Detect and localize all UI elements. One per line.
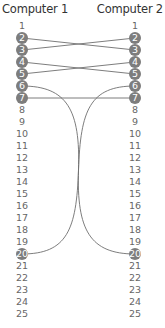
- pin-label: 18: [16, 224, 28, 235]
- pin-label: 19: [16, 236, 28, 247]
- computer-1-pin-10: 10: [10, 128, 34, 140]
- pin-label: 15: [129, 188, 141, 199]
- pin-label: 4: [19, 56, 25, 67]
- computer-1-pin-6: 6: [10, 80, 34, 92]
- computer-1-pin-17: 17: [10, 212, 34, 224]
- pin-label: 12: [16, 152, 28, 163]
- computer-1-pin-9: 9: [10, 116, 34, 128]
- computer-1-pin-16: 16: [10, 200, 34, 212]
- pin-label: 24: [129, 296, 141, 307]
- computer-1-pin-12: 12: [10, 152, 34, 164]
- computer-2-pin-9: 9: [123, 116, 147, 128]
- pin-label: 5: [19, 68, 25, 79]
- computer-2-pin-17: 17: [123, 212, 147, 224]
- computer-2-pin-13: 13: [123, 164, 147, 176]
- computer-2-pin-6: 6: [123, 80, 147, 92]
- pin-label: 25: [16, 308, 28, 319]
- computer-2-pin-21: 21: [123, 260, 147, 272]
- pin-label: 2: [19, 32, 25, 43]
- computer-1-pin-5: 5: [10, 68, 34, 80]
- pin-label: 6: [132, 80, 138, 91]
- computer-2-pin-10: 10: [123, 128, 147, 140]
- pin-label: 15: [16, 188, 28, 199]
- pin-label: 8: [19, 104, 25, 115]
- computer-2-pin-25: 25: [123, 308, 147, 320]
- pin-label: 5: [132, 68, 138, 79]
- computer-2-pin-24: 24: [123, 296, 147, 308]
- pin-label: 10: [129, 128, 141, 139]
- computer-2-pin-19: 19: [123, 236, 147, 248]
- pin-label: 13: [129, 164, 141, 175]
- pin-label: 11: [16, 140, 28, 151]
- pin-label: 1: [132, 20, 138, 31]
- computer-1-pin-25: 25: [10, 308, 34, 320]
- computer-2-pin-5: 5: [123, 68, 147, 80]
- pin-label: 2: [132, 32, 138, 43]
- pin-label: 3: [19, 44, 25, 55]
- computer-2-pin-16: 16: [123, 200, 147, 212]
- pin-label: 8: [132, 104, 138, 115]
- pin-label: 10: [16, 128, 28, 139]
- pin-label: 7: [19, 92, 25, 103]
- pin-label: 19: [129, 236, 141, 247]
- pin-label: 6: [19, 80, 25, 91]
- computer-2-pin-15: 15: [123, 188, 147, 200]
- pin-label: 25: [129, 308, 141, 319]
- computer-2-pin-23: 23: [123, 284, 147, 296]
- computer-1-pin-7: 7: [10, 92, 34, 104]
- pin-label: 17: [16, 212, 28, 223]
- computer-2-pin-14: 14: [123, 176, 147, 188]
- pin-label: 9: [132, 116, 138, 127]
- computer-2-pin-8: 8: [123, 104, 147, 116]
- pin-label: 17: [129, 212, 141, 223]
- pin-label: 4: [132, 56, 138, 67]
- pin-label: 21: [129, 260, 141, 271]
- pin-label: 21: [16, 260, 28, 271]
- pin-label: 14: [129, 176, 141, 187]
- computer-1-pin-3: 3: [10, 44, 34, 56]
- pin-label: 9: [19, 116, 25, 127]
- pin-label: 3: [132, 44, 138, 55]
- computer-2-pin-12: 12: [123, 152, 147, 164]
- computer-2-pin-20: 20: [123, 248, 147, 260]
- computer-2-pin-3: 3: [123, 44, 147, 56]
- pin-label: 11: [129, 140, 141, 151]
- pin-label: 12: [129, 152, 141, 163]
- computer-1-pin-11: 11: [10, 140, 34, 152]
- computer-1-pin-2: 2: [10, 32, 34, 44]
- computer-1-pin-8: 8: [10, 104, 34, 116]
- computer-1-pin-23: 23: [10, 284, 34, 296]
- computer-2-pin-11: 11: [123, 140, 147, 152]
- computer-1-pin-1: 1: [10, 20, 34, 32]
- computer-2-pin-4: 4: [123, 56, 147, 68]
- pin-label: 16: [16, 200, 28, 211]
- pin-label: 20: [16, 248, 28, 259]
- pin-label: 23: [16, 284, 28, 295]
- pin-label: 1: [19, 20, 25, 31]
- pin-label: 14: [16, 176, 28, 187]
- pin-label: 22: [129, 272, 141, 283]
- computer-1-pin-18: 18: [10, 224, 34, 236]
- computer-1-pin-24: 24: [10, 296, 34, 308]
- pin-label: 18: [129, 224, 141, 235]
- computer-2-pin-18: 18: [123, 224, 147, 236]
- pin-columns: 1234567891011121314151617181920212223242…: [0, 0, 165, 328]
- computer-1-pin-20: 20: [10, 248, 34, 260]
- pin-label: 16: [129, 200, 141, 211]
- computer-2-pin-2: 2: [123, 32, 147, 44]
- pin-label: 20: [129, 248, 141, 259]
- computer-1-pin-19: 19: [10, 236, 34, 248]
- computer-1-pin-15: 15: [10, 188, 34, 200]
- pin-label: 23: [129, 284, 141, 295]
- pin-label: 7: [132, 92, 138, 103]
- pin-label: 22: [16, 272, 28, 283]
- computer-1-pin-14: 14: [10, 176, 34, 188]
- computer-1-pin-21: 21: [10, 260, 34, 272]
- pin-label: 24: [16, 296, 28, 307]
- computer-1-pin-4: 4: [10, 56, 34, 68]
- computer-1-pin-13: 13: [10, 164, 34, 176]
- computer-2-pin-1: 1: [123, 20, 147, 32]
- computer-1-pin-22: 22: [10, 272, 34, 284]
- computer-2-pin-22: 22: [123, 272, 147, 284]
- pin-label: 13: [16, 164, 28, 175]
